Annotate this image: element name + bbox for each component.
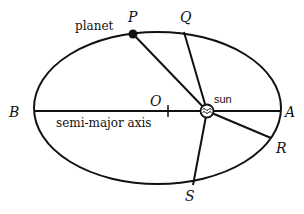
point-r-label: R bbox=[275, 140, 287, 156]
point-q-label: Q bbox=[180, 9, 192, 25]
sun-icon bbox=[201, 105, 214, 118]
point-s-label: S bbox=[185, 188, 195, 204]
semi-major-axis-label: semi-major axis bbox=[56, 116, 151, 130]
planet-dot-icon bbox=[129, 30, 138, 39]
sun-label: sun bbox=[214, 93, 232, 105]
point-b-label: B bbox=[8, 104, 19, 120]
kepler-orbit-diagram: planet P Q A B R S O sun semi-major axis bbox=[0, 0, 304, 214]
point-a-label: A bbox=[283, 104, 295, 120]
planet-label: planet bbox=[75, 19, 114, 33]
point-p-label: P bbox=[127, 9, 138, 25]
line-sun-to-r bbox=[207, 111, 271, 138]
line-sun-to-s bbox=[193, 111, 207, 185]
center-o-label: O bbox=[150, 93, 162, 109]
